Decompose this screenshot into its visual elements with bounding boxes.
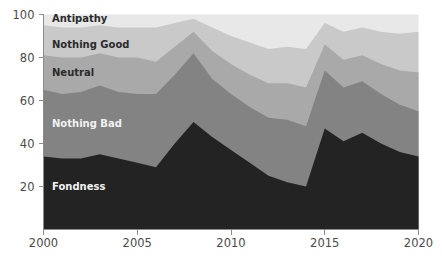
series-label-neutral: Neutral <box>52 67 94 78</box>
series-label-antipathy: Antipathy <box>52 13 108 24</box>
x-tick-label: 2020 <box>404 236 433 250</box>
stacked-area-chart: 2040608010020002005201020152020 Antipath… <box>0 0 442 265</box>
series-label-fondness: Fondness <box>52 181 105 192</box>
y-tick-label: 60 <box>20 94 35 108</box>
chart-canvas: 2040608010020002005201020152020 Antipath… <box>0 0 442 265</box>
x-tick-label: 2000 <box>29 236 58 250</box>
series-label-nothing-bad: Nothing Bad <box>52 118 122 129</box>
x-tick-label: 2005 <box>123 236 152 250</box>
x-tick-label: 2015 <box>310 236 339 250</box>
x-tick-label: 2010 <box>216 236 245 250</box>
series-label-nothing-good: Nothing Good <box>52 39 129 50</box>
y-tick-label: 20 <box>20 180 35 194</box>
y-tick-label: 80 <box>20 51 35 65</box>
y-tick-label: 100 <box>13 8 35 22</box>
y-tick-label: 40 <box>20 137 35 151</box>
